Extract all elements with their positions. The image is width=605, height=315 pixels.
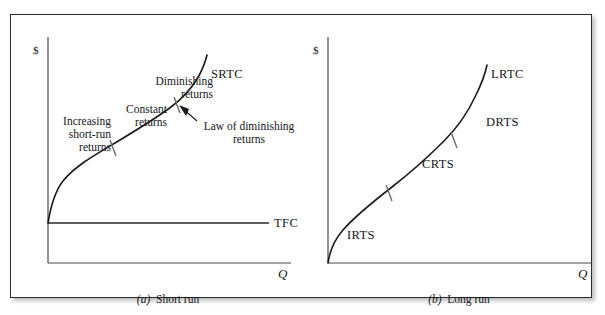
annotation-drts: DRTS [486, 115, 519, 129]
long-run-y-axis-label: $ [313, 44, 319, 56]
annotation-law-of-diminishing-returns: Law of diminishing returns [196, 120, 302, 146]
caption-short-run-text: Short run [156, 293, 199, 305]
short-run-plot [11, 15, 302, 299]
caption-long-run: (b) Long run [302, 281, 593, 315]
srtc-label: SRTC [211, 67, 243, 81]
caption-short-run-marker: (a) [137, 293, 150, 305]
annotation-diminishing-returns: Diminishing returns [141, 75, 213, 101]
short-run-y-axis-label: $ [33, 44, 39, 56]
caption-long-run-text: Long run [447, 293, 489, 305]
annotation-irts: IRTS [347, 228, 375, 242]
long-run-x-axis-label: Q [578, 267, 587, 282]
panel-long-run: $ Q LRTC IRTS CRTS DRTS (b) Long run [302, 15, 593, 299]
tfc-label: TFC [274, 216, 298, 230]
caption-long-run-marker: (b) [428, 293, 441, 305]
lrtc-tick-crts-drts [451, 132, 457, 148]
annotation-constant-returns: Constant returns [99, 103, 167, 129]
caption-short-run: (a) Short run [11, 281, 302, 315]
lrtc-label: LRTC [491, 67, 524, 81]
panel-short-run: $ Q SRTC TFC Increasing short-run return… [11, 15, 302, 299]
figure-root: $ Q SRTC TFC Increasing short-run return… [0, 0, 605, 315]
short-run-x-axis-label: Q [278, 267, 287, 282]
figure-frame: $ Q SRTC TFC Increasing short-run return… [10, 14, 592, 298]
law-arrow-head [179, 105, 189, 116]
annotation-crts: CRTS [422, 157, 454, 171]
